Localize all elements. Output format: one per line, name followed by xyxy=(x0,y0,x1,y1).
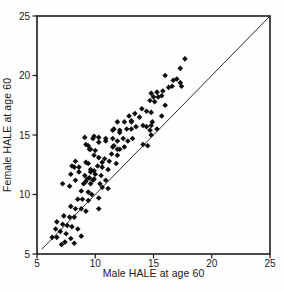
identity-line xyxy=(42,16,270,249)
data-point xyxy=(130,136,136,142)
data-point xyxy=(154,126,160,132)
data-point xyxy=(67,183,73,189)
data-point xyxy=(140,142,146,148)
data-point xyxy=(83,208,89,214)
data-point xyxy=(133,124,139,130)
data-point xyxy=(137,114,143,120)
data-point xyxy=(147,98,153,104)
data-point xyxy=(162,73,168,79)
data-point xyxy=(122,119,128,125)
data-point xyxy=(110,136,116,142)
data-point xyxy=(106,158,112,164)
y-tick-label: 15 xyxy=(19,130,31,141)
data-point xyxy=(73,177,79,183)
data-point xyxy=(85,198,91,204)
data-point xyxy=(147,127,153,133)
y-tick-label: 20 xyxy=(19,70,31,81)
data-point xyxy=(115,138,121,144)
data-point xyxy=(152,99,158,105)
data-point xyxy=(53,226,59,232)
data-point xyxy=(148,132,154,138)
data-point xyxy=(129,126,135,132)
data-point xyxy=(125,138,131,144)
data-point xyxy=(96,206,102,212)
data-point xyxy=(71,240,77,246)
data-point xyxy=(71,214,77,220)
data-point xyxy=(99,164,105,170)
x-tick-label: 5 xyxy=(34,258,40,269)
x-tick-label: 25 xyxy=(264,258,276,269)
data-point xyxy=(95,163,101,169)
hale-scatter-chart: 510152025 510152025 Male HALE at age 60 … xyxy=(0,0,284,291)
data-point xyxy=(80,196,86,202)
data-point xyxy=(113,161,119,167)
scatter-points xyxy=(49,56,187,247)
data-point xyxy=(182,56,188,62)
data-point xyxy=(159,113,165,119)
data-point xyxy=(96,135,102,141)
data-point xyxy=(68,236,74,242)
data-point xyxy=(115,119,121,125)
data-point xyxy=(91,152,97,158)
data-point xyxy=(92,148,98,154)
data-point xyxy=(132,111,138,117)
y-tick-label: 5 xyxy=(24,249,30,260)
data-point xyxy=(58,229,64,235)
data-point xyxy=(120,136,126,142)
x-axis-label: Male HALE at age 60 xyxy=(103,267,205,279)
data-point xyxy=(82,135,88,141)
data-point xyxy=(73,158,79,164)
y-axis-ticks: 510152025 xyxy=(19,11,37,260)
data-point xyxy=(75,226,81,232)
data-point xyxy=(105,167,111,173)
data-point xyxy=(78,233,84,239)
y-tick-label: 10 xyxy=(19,189,31,200)
data-point xyxy=(148,110,154,116)
data-point xyxy=(177,66,183,72)
data-point xyxy=(60,181,66,187)
data-point xyxy=(96,155,102,161)
data-point xyxy=(78,188,84,194)
data-point xyxy=(96,195,102,201)
data-point xyxy=(76,164,82,170)
data-point xyxy=(96,139,102,145)
data-point xyxy=(115,152,121,158)
data-point xyxy=(105,186,111,192)
data-point xyxy=(109,151,115,157)
data-point xyxy=(126,113,132,119)
data-point xyxy=(73,206,79,212)
data-point xyxy=(54,219,60,225)
data-point xyxy=(162,102,168,108)
data-point xyxy=(61,213,67,219)
data-point xyxy=(144,108,150,114)
data-point xyxy=(154,89,160,95)
data-point xyxy=(64,223,70,229)
data-point xyxy=(63,231,69,237)
y-tick-label: 25 xyxy=(19,11,31,22)
data-point xyxy=(68,171,74,177)
data-point xyxy=(160,88,166,94)
x-tick-label: 20 xyxy=(206,258,218,269)
data-point xyxy=(122,144,128,150)
data-point xyxy=(68,204,74,210)
x-tick-label: 10 xyxy=(90,258,102,269)
data-point xyxy=(69,224,75,230)
data-point xyxy=(145,143,151,149)
scatter-plot-figure: 510152025 510152025 Male HALE at age 60 … xyxy=(0,0,284,291)
data-point xyxy=(98,173,104,179)
y-axis-label: Female HALE at age 60 xyxy=(1,78,13,192)
data-point xyxy=(139,106,145,112)
